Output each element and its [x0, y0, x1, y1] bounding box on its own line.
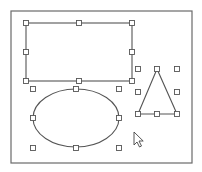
resize-handle[interactable] [136, 90, 141, 95]
selected-ellipse-shape[interactable] [33, 89, 119, 147]
resize-handle[interactable] [155, 112, 160, 117]
resize-handle[interactable] [155, 67, 160, 72]
triangle-resize-handles[interactable] [136, 67, 180, 117]
resize-handle[interactable] [117, 146, 122, 151]
resize-handle[interactable] [77, 21, 82, 26]
resize-handle[interactable] [74, 146, 79, 151]
resize-handle[interactable] [31, 146, 36, 151]
resize-handle[interactable] [24, 79, 29, 84]
resize-handle[interactable] [31, 116, 36, 121]
resize-handle[interactable] [31, 87, 36, 92]
rectangle-resize-handles[interactable] [24, 21, 135, 84]
selected-triangle-shape[interactable] [138, 69, 177, 114]
resize-handle[interactable] [175, 67, 180, 72]
resize-handle[interactable] [24, 21, 29, 26]
ellipse-resize-handles[interactable] [31, 87, 122, 151]
resize-handle[interactable] [130, 79, 135, 84]
drawing-canvas[interactable] [0, 0, 202, 172]
shapes-layer [26, 23, 177, 147]
selected-rectangle-shape[interactable] [26, 23, 132, 81]
resize-handle[interactable] [24, 50, 29, 55]
resize-handle[interactable] [130, 50, 135, 55]
resize-handle[interactable] [74, 87, 79, 92]
resize-handle[interactable] [136, 112, 141, 117]
resize-handle[interactable] [136, 67, 141, 72]
resize-handle[interactable] [175, 112, 180, 117]
resize-handle[interactable] [175, 90, 180, 95]
resize-handle[interactable] [117, 87, 122, 92]
mouse-pointer-icon [134, 132, 143, 147]
resize-handle[interactable] [130, 21, 135, 26]
resize-handle[interactable] [117, 116, 122, 121]
resize-handle[interactable] [77, 79, 82, 84]
